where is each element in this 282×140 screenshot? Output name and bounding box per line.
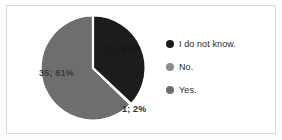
- legend-label-yes: Yes.: [179, 85, 197, 95]
- legend-swatch-icon-no: [166, 63, 174, 71]
- data-label-no: 1; 2%: [122, 104, 147, 114]
- legend-item-no[interactable]: No.: [166, 56, 274, 77]
- data-label-i-do-not-know: 21; 37%: [105, 44, 140, 54]
- legend-item-i-do-not-know[interactable]: I do not know.: [166, 33, 274, 54]
- chart-legend: I do not know. No. Yes.: [166, 33, 274, 102]
- legend-label-i-do-not-know: I do not know.: [179, 39, 236, 49]
- data-label-yes: 35; 61%: [39, 68, 74, 78]
- legend-label-no: No.: [179, 62, 193, 72]
- legend-item-yes[interactable]: Yes.: [166, 79, 274, 100]
- pie-chart-figure: 35; 61% 1; 2% 21; 37% I do not know. No.…: [0, 0, 282, 140]
- legend-swatch-icon-i-do-not-know: [166, 40, 174, 48]
- legend-swatch-icon-yes: [166, 86, 174, 94]
